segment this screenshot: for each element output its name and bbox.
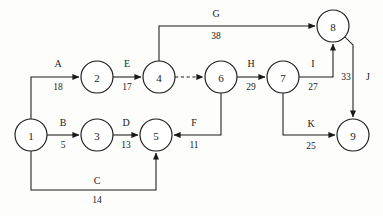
edge-label-a: A bbox=[54, 58, 62, 69]
node-1[interactable]: 1 bbox=[15, 119, 47, 151]
node-4[interactable]: 4 bbox=[143, 61, 175, 93]
edge-duration-j: 33 bbox=[341, 72, 351, 82]
edge-duration-e: 17 bbox=[122, 82, 132, 92]
node-label-1: 1 bbox=[28, 130, 34, 142]
edge-duration-c: 14 bbox=[92, 195, 102, 205]
node-2[interactable]: 2 bbox=[81, 61, 113, 93]
node-9[interactable]: 9 bbox=[337, 119, 369, 151]
edge-g-line bbox=[159, 26, 315, 61]
network-diagram-canvas: 123456789 A18B5C14D13E17F11G38H29I27J33K… bbox=[0, 0, 383, 216]
edge-duration-a: 18 bbox=[53, 82, 63, 92]
node-3[interactable]: 3 bbox=[81, 119, 113, 151]
edge-duration-g: 38 bbox=[211, 31, 221, 41]
edge-label-f: F bbox=[191, 117, 197, 128]
edge-label-g: G bbox=[212, 8, 219, 19]
node-label-5: 5 bbox=[153, 130, 159, 142]
edge-label-j: J bbox=[366, 71, 370, 82]
edge-duration-f: 11 bbox=[189, 140, 198, 150]
edge-label-b: B bbox=[60, 117, 67, 128]
edge-label-i: I bbox=[311, 58, 314, 69]
node-label-8: 8 bbox=[330, 21, 336, 33]
node-label-9: 9 bbox=[350, 130, 356, 142]
node-label-2: 2 bbox=[94, 72, 100, 84]
edge-duration-k: 25 bbox=[306, 141, 316, 151]
node-label-3: 3 bbox=[94, 130, 100, 142]
edge-duration-d: 13 bbox=[121, 140, 131, 150]
edges-layer bbox=[31, 26, 353, 190]
edge-duration-b: 5 bbox=[61, 140, 66, 150]
edge-label-k: K bbox=[307, 118, 315, 129]
node-5[interactable]: 5 bbox=[140, 119, 172, 151]
edge-f-line bbox=[174, 93, 221, 135]
node-8[interactable]: 8 bbox=[317, 10, 349, 42]
edge-i-line bbox=[299, 44, 333, 77]
edge-label-c: C bbox=[94, 175, 101, 186]
node-label-7: 7 bbox=[280, 72, 286, 84]
edge-label-h: H bbox=[247, 58, 254, 69]
node-label-4: 4 bbox=[156, 72, 162, 84]
node-7[interactable]: 7 bbox=[267, 61, 299, 93]
node-6[interactable]: 6 bbox=[205, 61, 237, 93]
edge-duration-h: 29 bbox=[246, 82, 256, 92]
edge-duration-i: 27 bbox=[308, 82, 318, 92]
nodes-layer: 123456789 bbox=[15, 10, 369, 151]
network-diagram-svg: 123456789 A18B5C14D13E17F11G38H29I27J33K… bbox=[0, 0, 383, 216]
node-label-6: 6 bbox=[218, 72, 224, 84]
edge-label-e: E bbox=[124, 58, 130, 69]
edge-label-d: D bbox=[122, 117, 129, 128]
